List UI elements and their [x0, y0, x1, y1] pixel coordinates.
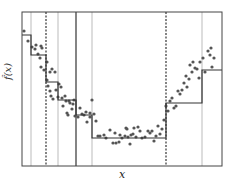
data-point [197, 76, 200, 79]
data-point [51, 97, 54, 100]
data-point [166, 109, 169, 112]
plot-frame [22, 12, 222, 166]
data-point [168, 99, 171, 102]
data-point [92, 112, 95, 115]
data-point [108, 128, 111, 131]
data-point [61, 104, 64, 107]
scatter-plot-with-step-fit [0, 0, 235, 184]
data-points [22, 29, 215, 145]
data-point [156, 124, 159, 127]
data-point [154, 134, 157, 137]
data-point [128, 142, 131, 145]
data-point [114, 141, 117, 144]
data-point [132, 126, 135, 129]
data-point [176, 89, 179, 92]
data-point [48, 89, 51, 92]
data-point [60, 96, 63, 99]
data-point [76, 115, 79, 118]
data-point [138, 129, 141, 132]
data-point [131, 132, 134, 135]
data-point [88, 115, 91, 118]
data-point [68, 101, 71, 104]
data-point [54, 88, 57, 91]
data-point [48, 70, 51, 73]
data-point [102, 133, 105, 136]
data-point [34, 43, 37, 46]
data-point [113, 131, 116, 134]
data-point [40, 46, 43, 49]
data-point [185, 85, 188, 88]
data-point [26, 39, 29, 42]
data-point [170, 96, 173, 99]
data-point [158, 132, 161, 135]
data-point [49, 94, 52, 97]
data-point [203, 70, 206, 73]
data-point [182, 81, 185, 84]
data-point [70, 107, 73, 110]
data-point [150, 129, 153, 132]
data-point [208, 53, 211, 56]
data-point [152, 139, 155, 142]
data-point [53, 70, 56, 73]
data-point [46, 84, 49, 87]
data-point [78, 106, 81, 109]
data-point [206, 49, 209, 52]
data-point [85, 120, 88, 123]
y-axis-label: f̂(x) [2, 63, 13, 80]
data-point [174, 104, 177, 107]
data-point [187, 77, 190, 80]
data-point [117, 140, 120, 143]
data-point [178, 92, 181, 95]
data-point [63, 94, 66, 97]
data-point [191, 60, 194, 63]
data-point [136, 125, 139, 128]
data-point [111, 141, 114, 144]
data-point [180, 88, 183, 91]
data-point [195, 67, 198, 70]
data-point [210, 65, 213, 68]
data-point [39, 65, 42, 68]
data-point [188, 63, 191, 66]
data-point [66, 113, 69, 116]
data-point [59, 85, 62, 88]
data-point [198, 60, 201, 63]
data-point [38, 56, 41, 59]
data-point [125, 127, 128, 130]
data-point [123, 134, 126, 137]
data-point [162, 118, 165, 121]
x-axis-label: x [119, 168, 125, 181]
data-point [118, 133, 121, 136]
data-point [42, 68, 45, 71]
data-point [33, 47, 36, 50]
step-function-fit [22, 35, 222, 138]
data-point [160, 127, 163, 130]
data-point [190, 70, 193, 73]
data-point [98, 134, 101, 137]
data-point [212, 56, 215, 59]
data-point [201, 56, 204, 59]
data-point [90, 98, 93, 101]
data-point [71, 102, 74, 105]
data-point [84, 110, 87, 113]
data-point [94, 119, 97, 122]
data-point [209, 46, 212, 49]
data-point [22, 29, 25, 32]
data-point [184, 74, 187, 77]
data-point [50, 67, 53, 70]
data-point [88, 111, 91, 114]
